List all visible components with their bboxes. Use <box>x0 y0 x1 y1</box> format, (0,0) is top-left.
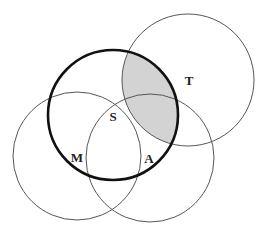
venn-diagram: S T M A <box>0 0 264 233</box>
label-a: A <box>144 151 154 166</box>
label-m: M <box>71 150 83 165</box>
label-s: S <box>109 109 116 124</box>
label-t: T <box>185 73 194 88</box>
